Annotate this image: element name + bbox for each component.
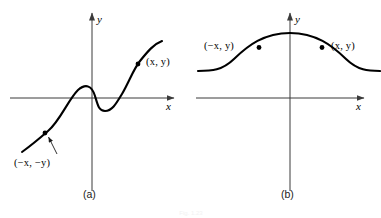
panel-a-y-axis-label: y xyxy=(97,14,102,25)
panel-a: y x (x, y) (−x, −y) (a) xyxy=(0,0,190,218)
panel-a-label-upper-right: (x, y) xyxy=(146,57,170,68)
panel-a-leader-line xyxy=(49,137,58,154)
panel-b-y-axis-label: y xyxy=(295,14,300,25)
panel-b-label-left: (−x, y) xyxy=(204,41,234,52)
panel-b-label-right: (x, y) xyxy=(331,41,355,52)
panel-b-point-left-dot xyxy=(257,45,262,50)
panel-a-point-lower-left-dot xyxy=(43,131,48,136)
panel-b-point-right-dot xyxy=(320,45,325,50)
panel-b: y x (−x, y) (x, y) (b) xyxy=(190,0,381,218)
panel-a-label-lower-left: (−x, −y) xyxy=(14,158,50,169)
figure-container: y x (x, y) (−x, −y) (a) xyxy=(0,0,381,218)
panel-a-point-upper-right-dot xyxy=(136,62,141,67)
panel-a-graph xyxy=(0,0,190,218)
panel-b-graph xyxy=(190,0,381,218)
panel-b-caption: (b) xyxy=(281,189,294,200)
figure-caption: Fig. 1.23 xyxy=(168,210,214,216)
panel-b-x-axis-label: x xyxy=(356,101,361,112)
panel-a-caption: (a) xyxy=(83,189,96,200)
panel-b-curve xyxy=(198,33,380,71)
panel-a-x-axis-label: x xyxy=(166,101,171,112)
